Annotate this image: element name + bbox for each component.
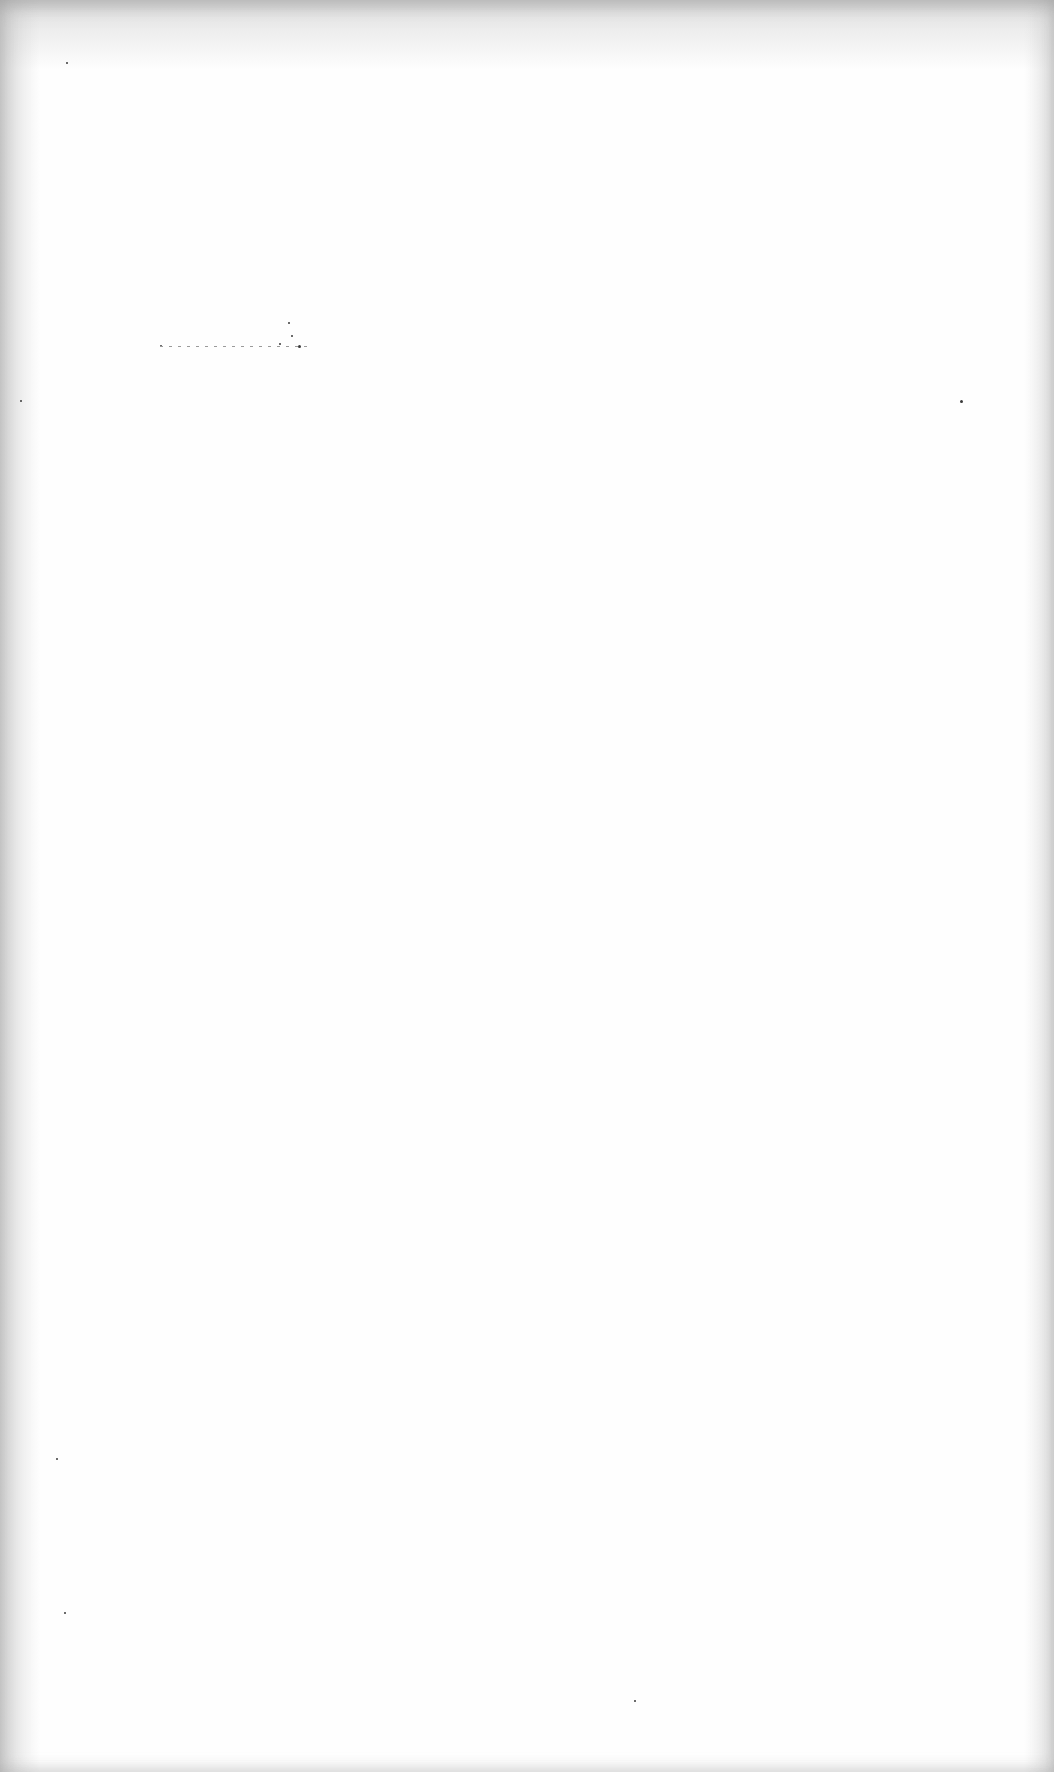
scan-speck xyxy=(66,62,68,64)
scan-speck xyxy=(279,343,281,345)
scan-top-shading xyxy=(0,0,1054,70)
scan-speck xyxy=(634,1700,636,1702)
scan-right-shading xyxy=(1024,0,1054,1772)
blank-scanned-page xyxy=(0,0,1054,1772)
scan-faint-mark xyxy=(160,346,310,347)
scan-speck xyxy=(960,400,963,403)
scan-speck xyxy=(64,1612,66,1614)
scan-speck xyxy=(291,335,293,337)
scan-speck xyxy=(56,1458,58,1460)
scan-speck xyxy=(20,400,22,402)
scan-speck xyxy=(288,322,290,324)
scan-edge-shadow xyxy=(0,0,1054,1772)
scan-left-shading xyxy=(0,0,40,1772)
